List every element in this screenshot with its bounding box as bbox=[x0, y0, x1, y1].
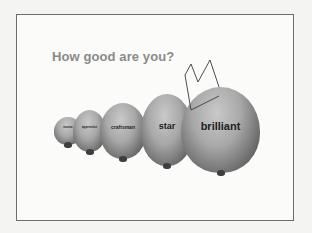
level-label: apprentice bbox=[82, 125, 97, 129]
level-label: star bbox=[159, 121, 176, 131]
lemon-craftsman: craftsman bbox=[100, 103, 146, 159]
level-label: craftsman bbox=[111, 124, 135, 130]
crown-icon bbox=[183, 60, 243, 115]
slide-title: How good are you? bbox=[52, 49, 174, 64]
level-label: brilliant bbox=[201, 120, 241, 132]
level-label: novice bbox=[63, 125, 73, 129]
